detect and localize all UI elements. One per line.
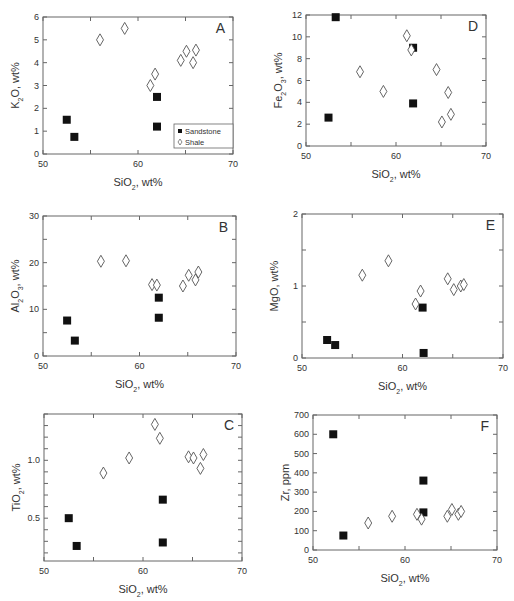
y-axis-label: K2O, wt% (9, 62, 24, 109)
shale-marker (438, 116, 445, 128)
y-tick-label: 4 (297, 97, 302, 107)
shale-marker (200, 449, 207, 461)
scatter-panel-e: 506070012ESiO2, wt%MgO, wt% (268, 209, 508, 395)
sandstone-marker (409, 99, 417, 107)
shale-marker (447, 108, 454, 120)
shale-marker (389, 510, 396, 522)
shale-marker (190, 452, 197, 464)
plot-frame (302, 214, 503, 358)
x-axis-label: SiO2, wt% (118, 583, 167, 598)
y-tick-label: 600 (294, 429, 309, 439)
shale-marker (183, 45, 190, 57)
y-tick-label: 500 (294, 449, 309, 459)
sandstone-marker (419, 477, 427, 485)
x-axis-label: SiO2, wt% (380, 572, 429, 587)
scatter-panel-b: 5060700102030BSiO2, wt%Al2O3, wt% (9, 211, 241, 393)
x-tick-label: 50 (38, 361, 48, 371)
x-tick-label: 50 (308, 555, 318, 565)
scatter-panel-d: 506070024681012DSiO2, wt%Fe2O3, wt% (272, 10, 491, 183)
shale-marker (445, 87, 452, 99)
panel-letter: F (480, 418, 489, 434)
sandstone-marker (339, 532, 347, 540)
scatter-panel-f: 5060700100200300400500600700FSiO2, wt%Zr… (279, 410, 502, 587)
legend-sandstone-label: Sandstone (185, 127, 221, 136)
x-tick-label: 50 (297, 363, 307, 373)
sandstone-marker (329, 430, 337, 438)
y-tick-label: 0 (293, 353, 298, 363)
sandstone-marker (331, 341, 339, 349)
shale-marker (97, 255, 104, 267)
sandstone-marker (153, 93, 161, 101)
x-tick-label: 60 (400, 555, 410, 565)
sandstone-marker (419, 304, 427, 312)
y-tick-label: 400 (294, 468, 309, 478)
shale-marker (403, 30, 410, 42)
y-axis-label: TiO2, wt% (10, 463, 25, 511)
y-axis-label: Al2O3, wt% (9, 259, 24, 312)
shale-marker (122, 255, 129, 267)
y-tick-label: 0 (297, 141, 302, 151)
x-tick-label: 70 (498, 363, 508, 373)
y-tick-label: 10 (29, 304, 39, 314)
sandstone-marker (155, 294, 163, 302)
x-tick-label: 50 (301, 151, 311, 161)
x-tick-label: 50 (39, 566, 49, 576)
shale-marker (185, 269, 192, 281)
shale-marker (357, 66, 364, 78)
panel-letter: C (224, 417, 234, 433)
x-tick-label: 70 (237, 566, 247, 576)
y-tick-label: 0 (34, 149, 39, 159)
x-tick-label: 60 (134, 361, 144, 371)
shale-marker (177, 54, 184, 66)
y-tick-label: 1 (293, 281, 298, 291)
x-tick-label: 60 (397, 363, 407, 373)
y-tick-label: 200 (294, 506, 309, 516)
y-tick-label: 10 (292, 32, 302, 42)
x-tick-label: 70 (492, 555, 502, 565)
y-tick-label: 6 (297, 76, 302, 86)
shale-marker (147, 80, 154, 92)
legend-shale-label: Shale (185, 138, 204, 147)
x-tick-label: 60 (133, 159, 143, 169)
shale-marker (190, 57, 197, 69)
y-tick-label: 100 (294, 526, 309, 536)
plot-frame (306, 15, 486, 146)
y-tick-label: 4 (34, 58, 39, 68)
y-tick-label: 300 (294, 487, 309, 497)
sandstone-marker (332, 13, 340, 21)
x-tick-label: 60 (391, 151, 401, 161)
shale-marker (179, 280, 186, 292)
shale-marker (197, 462, 204, 474)
x-tick-label: 70 (481, 151, 491, 161)
sandstone-marker (73, 542, 81, 550)
shale-marker (151, 418, 158, 430)
y-tick-label: 2 (293, 209, 298, 219)
plot-frame (44, 414, 242, 561)
shale-marker (385, 255, 392, 267)
plot-frame (43, 216, 236, 356)
panel-letter: E (486, 217, 495, 233)
sandstone-marker (153, 123, 161, 131)
sandstone-marker (71, 337, 79, 345)
y-tick-label: 1 (34, 126, 39, 136)
scatter-panel-c: 5060700.51.0CSiO2, wt%TiO2, wt% (10, 414, 247, 598)
y-tick-label: 6 (34, 12, 39, 22)
y-tick-label: 700 (294, 410, 309, 420)
shale-marker (380, 85, 387, 97)
shale-marker (156, 432, 163, 444)
sandstone-marker (159, 538, 167, 546)
sandstone-marker (325, 114, 333, 122)
y-axis-label: MgO, wt% (268, 260, 280, 311)
y-tick-label: 12 (292, 10, 302, 20)
x-tick-label: 50 (38, 159, 48, 169)
shale-marker (417, 285, 424, 297)
y-tick-label: 0 (304, 545, 309, 555)
scatter-panel-a: 5060700123456ASiO2, wt%K2O, wt%Sandstone… (9, 12, 238, 191)
sandstone-marker (420, 349, 428, 357)
legend-sandstone-marker (178, 129, 182, 133)
sandstone-marker (323, 336, 331, 344)
y-tick-label: 8 (297, 54, 302, 64)
x-axis-label: SiO2, wt% (371, 168, 420, 183)
y-tick-label: 2 (34, 103, 39, 113)
shale-marker (412, 298, 419, 310)
